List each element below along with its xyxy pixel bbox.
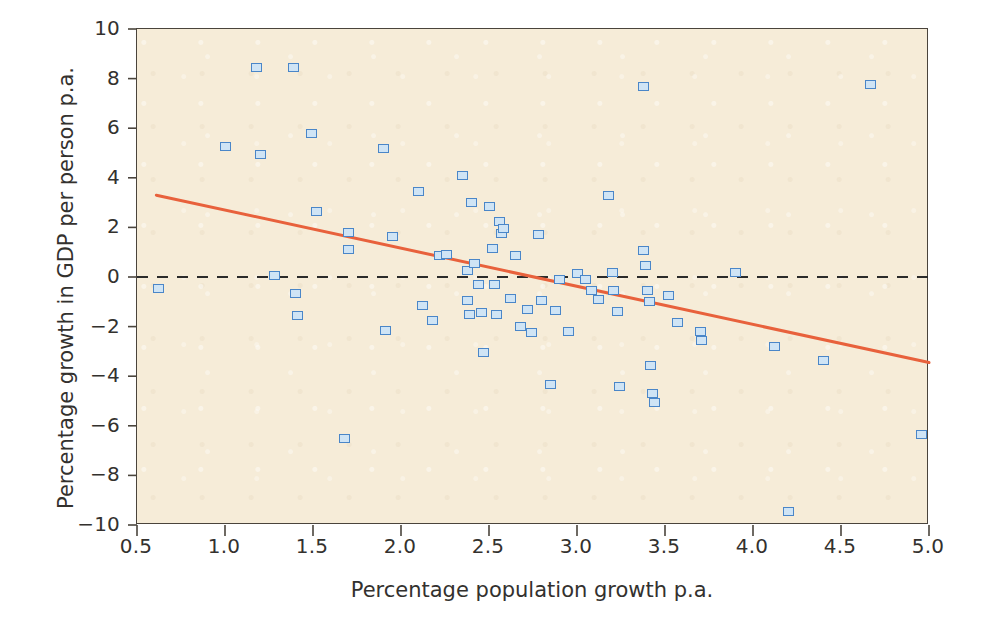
scatter-chart-figure: 1086420−2−4−6−8−10 0.51.01.52.02.53.03.5… [0,0,990,630]
x-tick-label: 2.5 [453,536,523,556]
data-point-marker [469,259,480,268]
data-point-marker [515,322,526,331]
x-axis-title: Percentage population growth p.a. [136,578,928,602]
data-point-marker [580,275,591,284]
data-point-marker [522,305,533,314]
data-point-marker [645,361,656,370]
data-point-marker [311,207,322,216]
x-tick-label: 1.5 [277,536,347,556]
x-tick-label: 4.0 [717,536,787,556]
data-point-marker [638,82,649,91]
plot-panel [136,28,928,524]
data-point-marker [290,289,301,298]
data-point-marker [563,327,574,336]
data-point-marker [288,63,299,72]
data-point-marker [647,389,658,398]
data-point-marker [462,296,473,305]
data-point-marker [554,275,565,284]
data-point-marker [476,308,487,317]
data-point-marker [644,297,655,306]
data-point-marker [593,295,604,304]
data-point-marker [642,286,653,295]
data-point-marker [269,271,280,280]
x-tick-label: 0.5 [101,536,171,556]
x-tick-label: 5.0 [893,536,963,556]
x-tick-label: 2.0 [365,536,435,556]
data-point-marker [498,224,509,233]
data-point-marker [484,202,495,211]
data-point-marker [638,246,649,255]
data-point-marker [153,284,164,293]
data-point-marker [865,80,876,89]
data-point-marker [672,318,683,327]
data-point-marker [487,244,498,253]
data-point-marker [649,398,660,407]
data-point-marker [730,268,741,277]
x-tick-label: 1.0 [189,536,259,556]
data-point-marker [607,268,618,277]
data-point-marker [818,356,829,365]
data-point-marker [427,316,438,325]
data-point-marker [603,191,614,200]
data-point-marker [783,507,794,516]
data-point-marker [220,142,231,151]
data-point-marker [380,326,391,335]
data-point-marker [505,294,516,303]
data-point-marker [545,380,556,389]
data-point-marker [464,310,475,319]
x-axis-tick-labels: 0.51.01.52.02.53.03.54.04.55.0 [0,536,990,564]
data-point-marker [378,144,389,153]
data-point-marker [255,150,266,159]
y-axis-title: Percentage growth in GDP per person p.a. [54,8,78,568]
data-point-marker [292,311,303,320]
data-point-marker [586,286,597,295]
data-point-marker [339,434,350,443]
x-tick-label: 3.0 [541,536,611,556]
data-point-marker [489,280,500,289]
data-point-marker [696,336,707,345]
data-point-marker [343,228,354,237]
data-point-marker [769,342,780,351]
x-tick-label: 4.5 [805,536,875,556]
x-tick-label: 3.5 [629,536,699,556]
data-point-marker [916,430,927,439]
data-point-marker [510,251,521,260]
data-point-marker [536,296,547,305]
data-point-marker [695,327,706,336]
data-point-marker [608,286,619,295]
data-point-marker [417,301,428,310]
data-point-marker [614,382,625,391]
data-point-marker [413,187,424,196]
data-point-marker [663,291,674,300]
data-point-marker [612,307,623,316]
data-point-marker [306,129,317,138]
data-point-marker [640,261,651,270]
data-point-markers [137,29,929,525]
data-point-marker [457,171,468,180]
data-point-marker [473,280,484,289]
data-point-marker [387,232,398,241]
data-point-marker [251,63,262,72]
data-point-marker [526,328,537,337]
data-point-marker [343,245,354,254]
data-point-marker [478,348,489,357]
data-point-marker [441,250,452,259]
data-point-marker [466,198,477,207]
data-point-marker [491,310,502,319]
data-point-marker [550,306,561,315]
data-point-marker [533,230,544,239]
